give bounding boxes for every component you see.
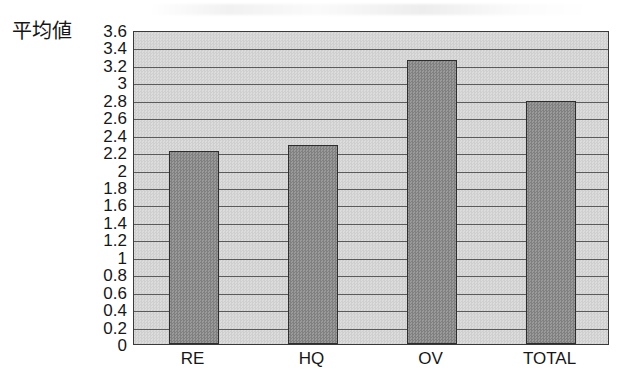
bar xyxy=(526,101,576,344)
y-axis-tick-label: 2.4 xyxy=(87,128,127,145)
y-axis-tick-label: 1.8 xyxy=(87,180,127,197)
y-axis-tick-label: 0 xyxy=(87,337,127,354)
y-axis-tick-label: 3 xyxy=(87,75,127,92)
x-axis-tick-label: OV xyxy=(371,350,491,367)
y-axis-tick-label: 0.2 xyxy=(87,320,127,337)
bar xyxy=(169,151,219,344)
plot-area xyxy=(133,31,609,345)
y-axis-tick-label: 1.6 xyxy=(87,197,127,214)
bar xyxy=(288,145,338,344)
y-axis-tick-label: 3.6 xyxy=(87,23,127,40)
y-axis-tick-label: 2.2 xyxy=(87,145,127,162)
bar xyxy=(407,60,457,344)
y-axis-tick-label: 3.4 xyxy=(87,40,127,57)
y-axis-tick-label: 0.4 xyxy=(87,302,127,319)
bar-chart: 平均値 3.63.43.232.82.62.42.221.81.61.41.21… xyxy=(0,0,624,386)
x-axis-tick-label: HQ xyxy=(252,350,372,367)
y-axis-tick-label: 0.8 xyxy=(87,267,127,284)
y-axis-tick-label: 3.2 xyxy=(87,58,127,75)
y-axis-title: 平均値 xyxy=(12,21,72,41)
y-axis-tick-label: 1.4 xyxy=(87,215,127,232)
y-axis-tick-label: 2.6 xyxy=(87,110,127,127)
gridline xyxy=(134,67,608,68)
y-axis-tick-label: 1 xyxy=(87,250,127,267)
x-axis-tick-label: TOTAL xyxy=(490,350,610,367)
y-axis-tick-label: 0.6 xyxy=(87,285,127,302)
gridline xyxy=(134,49,608,50)
y-axis-tick-label: 1.2 xyxy=(87,232,127,249)
y-axis-tick-label: 2 xyxy=(87,163,127,180)
x-axis-tick-label: RE xyxy=(133,350,253,367)
y-axis-tick-label: 2.8 xyxy=(87,93,127,110)
gridline xyxy=(134,84,608,85)
